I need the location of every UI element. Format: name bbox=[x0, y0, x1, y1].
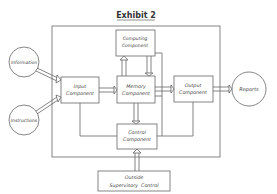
memory-control-arrow bbox=[132, 103, 140, 124]
memory-computing-arrow bbox=[120, 56, 128, 76]
input-component-box bbox=[61, 77, 99, 103]
computing-label-2: Component bbox=[122, 43, 148, 48]
memory-output-arrow bbox=[155, 85, 174, 93]
reports-label: Reports bbox=[239, 86, 259, 93]
supervisory-label-1: Outside bbox=[125, 175, 144, 180]
input-label-1: Input bbox=[74, 84, 88, 89]
memory-component-box bbox=[117, 76, 155, 103]
diagram-canvas: Exhibit 2 Information Instructions Repor… bbox=[0, 0, 277, 194]
input-control-line bbox=[80, 103, 117, 136]
supervisory-control-box bbox=[98, 171, 170, 191]
information-input-arrow bbox=[36, 68, 61, 83]
supervisory-label-2: Supervisory Control bbox=[110, 183, 160, 188]
instructions-input-arrow bbox=[36, 95, 61, 114]
input-label-2: Component bbox=[66, 91, 95, 96]
input-memory-arrow bbox=[99, 86, 117, 94]
instructions-label: Instructions bbox=[11, 118, 38, 123]
computing-memory-arrow bbox=[145, 56, 153, 76]
memory-label-2: Component bbox=[122, 91, 151, 96]
output-label-2: Component bbox=[179, 90, 208, 95]
output-reports-arrow bbox=[213, 85, 232, 93]
output-component-box bbox=[174, 76, 213, 102]
exhibit-title: Exhibit 2 bbox=[116, 11, 156, 20]
output-label-1: Output bbox=[185, 83, 203, 88]
computing-label-1: Computing bbox=[123, 36, 148, 41]
memory-label-1: Memory bbox=[126, 84, 146, 89]
information-label: Information bbox=[11, 60, 37, 65]
computing-control-line bbox=[155, 53, 162, 136]
supervisory-control-arrow bbox=[133, 149, 141, 171]
control-label-1: Control bbox=[128, 130, 146, 135]
control-label-2: Component bbox=[123, 137, 152, 142]
